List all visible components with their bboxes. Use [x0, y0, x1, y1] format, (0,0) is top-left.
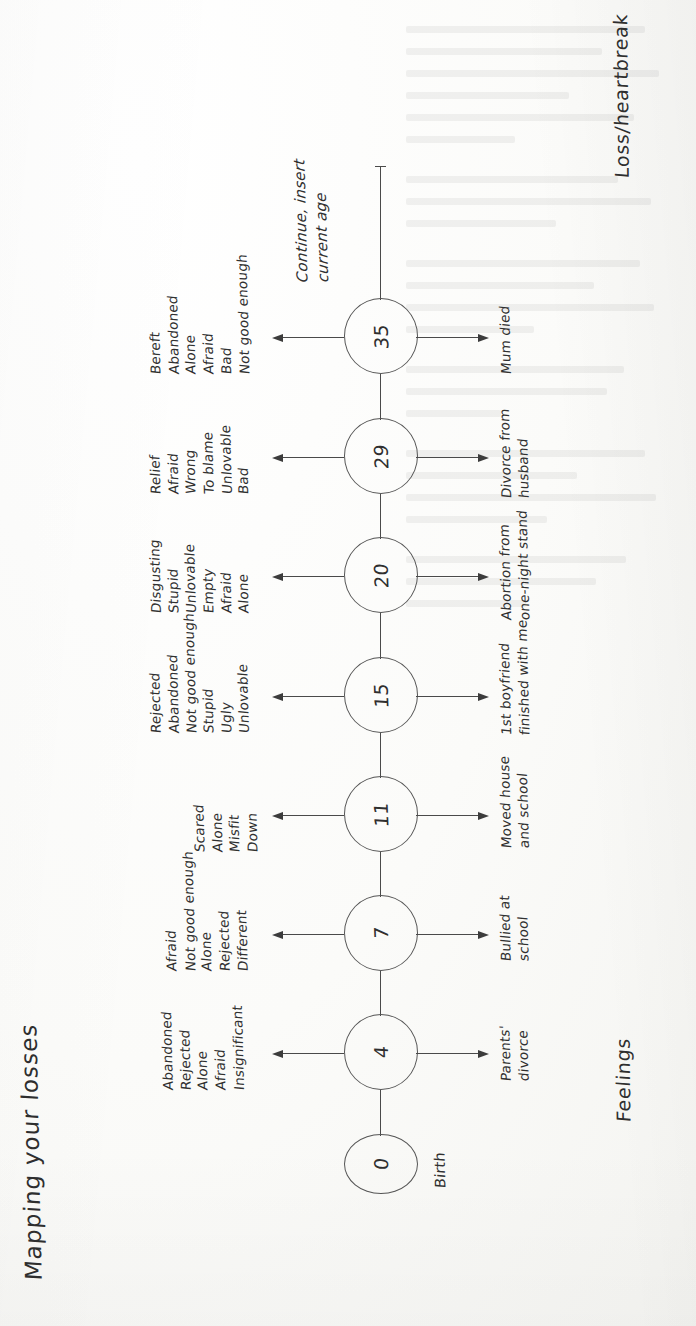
timeline-node-15[interactable]: 15	[344, 657, 418, 733]
feelings-arrowhead-35	[272, 334, 283, 342]
feelings-branch-35	[281, 337, 344, 338]
timeline-end-tick	[375, 166, 386, 167]
loss-word: Divorce from	[497, 408, 515, 499]
loss-arrowhead-20	[478, 573, 489, 581]
page-title: Mapping your losses	[15, 1022, 46, 1281]
feeling-word: Wrong	[183, 449, 200, 495]
loss-word: finished with me	[514, 619, 533, 736]
loss-arrowhead-7	[478, 931, 489, 939]
feelings-list-29: Relief Afraid Wrong To blame Unlovable B…	[148, 425, 252, 494]
loss-word: school	[515, 916, 532, 962]
feeling-word: Bereft	[147, 331, 164, 375]
feeling-word: Alone	[236, 573, 253, 614]
timeline-segment-15-20	[380, 613, 381, 659]
node-age-label: 15	[370, 682, 393, 709]
timeline-segment-4-7	[380, 971, 381, 1016]
loss-list-4: Parents' divorce	[498, 1025, 531, 1081]
loss-list-15: 1st boyfriend finished with me	[498, 620, 531, 735]
loss-list-35: Mum died	[498, 306, 514, 374]
feeling-word: Bad	[236, 466, 252, 494]
timeline-node-35[interactable]: 35	[344, 298, 418, 374]
feeling-word: Alone	[195, 1050, 212, 1091]
loss-word: divorce	[515, 1029, 532, 1082]
node-age-label: 11	[370, 801, 393, 828]
axis-label-loss-heartbreak: Loss/heartbreak	[609, 13, 633, 179]
feelings-branch-29	[281, 457, 344, 458]
loss-list-11: Moved house and school	[498, 756, 531, 848]
feeling-word: Abandoned	[159, 1010, 177, 1090]
feeling-word: Alone	[183, 334, 200, 375]
continue-note: Continue, insert current age	[292, 159, 331, 282]
feelings-list-7: Afraid Not good enough Alone Rejected Di…	[164, 851, 250, 971]
feeling-word: Disgusting	[147, 539, 165, 614]
feeling-word: Ugly	[218, 701, 234, 734]
loss-list-20: Abortion from one-night stand	[498, 510, 531, 620]
loss-branch-11	[416, 815, 479, 816]
timeline-node-4[interactable]: 4	[344, 1014, 418, 1090]
timeline-node-29[interactable]: 29	[344, 418, 418, 494]
feeling-word: Rejected	[147, 672, 164, 734]
timeline-node-7[interactable]: 7	[344, 895, 418, 971]
feelings-arrowhead-7	[272, 931, 283, 939]
loss-branch-29	[416, 457, 479, 458]
loss-arrowhead-4	[478, 1050, 489, 1058]
node-age-label: 4	[370, 1045, 392, 1059]
loss-branch-7	[416, 934, 479, 935]
birth-label: Birth	[431, 1151, 448, 1188]
timeline-segment-7-11	[380, 852, 381, 897]
feelings-branch-4	[281, 1053, 344, 1054]
feeling-word: Not good enough	[180, 850, 199, 972]
feeling-word: Afraid	[165, 452, 182, 494]
feeling-word: Rejected	[216, 910, 233, 972]
loss-branch-20	[416, 576, 479, 577]
feelings-list-4: Abandoned Rejected Alone Afraid Insignif…	[160, 1005, 246, 1090]
feelings-arrowhead-20	[272, 573, 283, 581]
feeling-word: Stupid	[165, 568, 182, 614]
feeling-word: Rejected	[177, 1029, 194, 1091]
loss-arrowhead-11	[478, 812, 489, 820]
node-age-label: 29	[370, 443, 393, 470]
loss-word: Bullied at	[497, 894, 514, 962]
feeling-word: To blame	[200, 431, 217, 495]
loss-word: 1st boyfriend	[497, 642, 515, 736]
feeling-word: Insignificant	[230, 1004, 248, 1091]
timeline-segment-29-35	[380, 374, 381, 420]
timeline-node-11[interactable]: 11	[344, 776, 418, 852]
timeline-segment-11-15	[380, 733, 381, 778]
feeling-word: Down	[244, 812, 261, 853]
feeling-word: Abandoned	[165, 294, 183, 374]
feeling-word: Alone	[209, 812, 226, 853]
feeling-word: Different	[234, 909, 251, 972]
feelings-branch-20	[281, 576, 344, 577]
loss-word: husband	[515, 438, 532, 499]
node-age-label: 35	[370, 323, 393, 350]
loss-arrowhead-29	[478, 454, 489, 462]
feelings-arrowhead-15	[272, 693, 283, 701]
timeline-segment-20-29	[380, 494, 381, 539]
feeling-word: Not good enough	[182, 612, 201, 734]
timeline-node-0[interactable]: 0	[344, 1134, 418, 1194]
timeline-node-20[interactable]: 20	[344, 537, 418, 613]
timeline-open-tail	[380, 166, 381, 300]
loss-arrowhead-35	[478, 334, 489, 342]
loss-word: Mum died	[497, 305, 514, 375]
feeling-word: Empty	[200, 568, 217, 614]
loss-branch-15	[416, 696, 479, 697]
loss-branch-35	[416, 337, 479, 338]
feelings-list-11: Scared Alone Misfit Down	[192, 804, 261, 852]
feeling-word: Afraid	[163, 929, 180, 971]
node-age-label: 0	[370, 1157, 392, 1171]
loss-list-29: Divorce from husband	[498, 409, 531, 498]
feeling-word: Abandoned	[165, 653, 183, 733]
feelings-branch-11	[281, 815, 344, 816]
feeling-word: Unlovable	[182, 543, 199, 614]
feelings-arrowhead-29	[272, 454, 283, 462]
feelings-branch-7	[281, 934, 344, 935]
node-age-label: 7	[370, 926, 392, 940]
feelings-list-15: Rejected Abandoned Not good enough Stupi…	[148, 613, 252, 733]
feeling-word: Relief	[147, 454, 164, 494]
feeling-word: Not good enough	[235, 253, 254, 375]
feeling-word: Misfit	[227, 814, 244, 853]
loss-word: Moved house	[497, 755, 515, 849]
axis-label-feelings: Feelings	[612, 1037, 635, 1123]
